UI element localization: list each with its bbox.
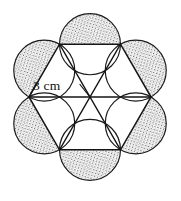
geometry-figure: 3 cm bbox=[0, 0, 181, 201]
radius-label: 3 cm bbox=[33, 78, 61, 93]
figure-canvas: 3 cm bbox=[0, 0, 181, 201]
